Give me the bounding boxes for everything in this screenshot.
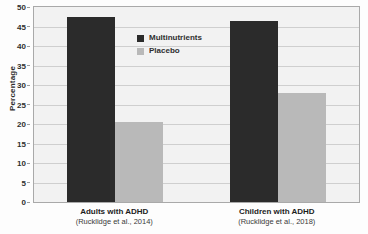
bar <box>278 93 326 202</box>
legend-swatch-icon <box>137 35 144 42</box>
bar <box>115 122 163 202</box>
y-axis-tick-mark <box>27 46 30 47</box>
bar-chart: Percentage 05101520253035404550 Multinut… <box>0 0 368 234</box>
y-axis-tick-mark <box>27 163 30 164</box>
legend: Multinutrients Placebo <box>137 34 202 55</box>
y-axis-tick-mark <box>27 104 30 105</box>
x-axis-category: Children with ADHD(Rucklidge et al., 201… <box>201 207 353 226</box>
x-axis-category-name: Adults with ADHD <box>38 207 190 217</box>
y-axis-tick-label: 5 <box>22 178 26 187</box>
y-axis-tick-mark <box>27 202 30 203</box>
bar <box>67 17 115 202</box>
y-axis-tick-mark <box>27 182 30 183</box>
y-axis-tick-label: 35 <box>17 61 26 70</box>
x-axis-category: Adults with ADHD(Rucklidge et al., 2014) <box>38 207 190 226</box>
bar <box>230 21 278 202</box>
legend-swatch-icon <box>137 48 144 55</box>
y-axis-tick-label: 30 <box>17 81 26 90</box>
x-axis-category-name: Children with ADHD <box>201 207 353 217</box>
y-axis-tick-label: 25 <box>17 100 26 109</box>
legend-label: Multinutrients <box>149 34 202 42</box>
y-axis-tick-label: 50 <box>17 3 26 12</box>
y-axis-tick-mark <box>27 7 30 8</box>
legend-item: Placebo <box>137 47 202 55</box>
y-axis-tick-mark <box>27 26 30 27</box>
y-axis-tick-label: 20 <box>17 120 26 129</box>
y-axis-tick-label: 10 <box>17 159 26 168</box>
x-axis-category-source: (Rucklidge et al., 2018) <box>201 217 353 226</box>
y-axis-tick-mark <box>27 85 30 86</box>
legend-item: Multinutrients <box>137 34 202 42</box>
y-axis-tick-label: 15 <box>17 139 26 148</box>
y-axis-tick-label: 40 <box>17 42 26 51</box>
y-axis-tick-mark <box>27 124 30 125</box>
y-axis-tick-label: 0 <box>22 198 26 207</box>
y-axis-tick-mark <box>27 143 30 144</box>
legend-label: Placebo <box>149 47 180 55</box>
x-axis-category-source: (Rucklidge et al., 2014) <box>38 217 190 226</box>
x-axis-category-labels: Adults with ADHD(Rucklidge et al., 2014)… <box>33 207 360 234</box>
y-axis-tick-label: 45 <box>17 22 26 31</box>
plot-area: Multinutrients Placebo <box>33 6 360 203</box>
y-axis-tick-mark <box>27 65 30 66</box>
y-axis-ticks: 05101520253035404550 <box>0 6 30 203</box>
